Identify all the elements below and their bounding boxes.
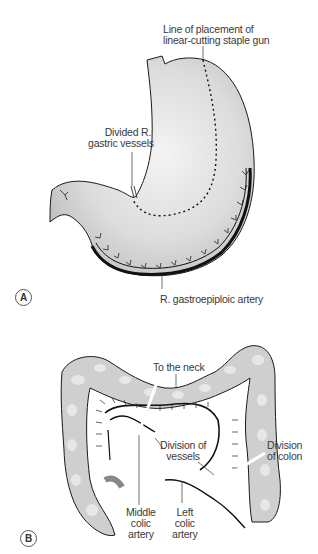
label-staple-line: Line of placement of linear-cutting stap… bbox=[163, 24, 270, 46]
label-division-colon: Division of colon bbox=[267, 440, 302, 462]
panel-badge-a: A bbox=[15, 289, 32, 306]
label-middle-colic: Middle colic artery bbox=[126, 507, 156, 540]
label-division-vessels: Division of vessels bbox=[160, 440, 206, 462]
division-vessels-label-2: vessels bbox=[160, 451, 206, 462]
middle-colic-label-3: artery bbox=[126, 529, 156, 540]
staple-line-label-2: linear-cutting staple gun bbox=[163, 35, 270, 46]
label-to-the-neck: To the neck bbox=[153, 362, 205, 373]
label-left-colic: Left colic artery bbox=[172, 507, 198, 540]
stomach-illustration bbox=[0, 0, 318, 554]
left-colic-label-3: artery bbox=[172, 529, 198, 540]
panel-badge-b: B bbox=[20, 530, 37, 547]
stomach-body bbox=[50, 56, 254, 276]
label-gastric-vessels: Divided R. gastric vessels bbox=[88, 127, 154, 149]
gastric-vessels-label-2: gastric vessels bbox=[88, 138, 154, 149]
division-colon-label-2: of colon bbox=[267, 451, 302, 462]
label-gastroepiploic: R. gastroepiploic artery bbox=[160, 294, 263, 305]
